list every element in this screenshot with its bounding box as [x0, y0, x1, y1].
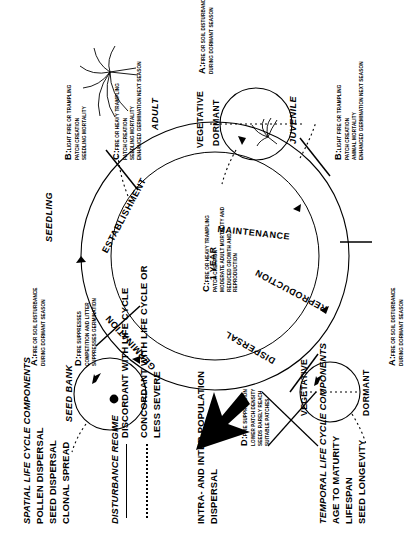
note-key: A: — [387, 356, 397, 366]
note-line: PATCH CREATION — [75, 85, 82, 160]
note-line: MODERATE ADULT MORTALITY AND — [220, 207, 227, 292]
note-line: DURING DORMANT SEASON — [399, 287, 406, 366]
ring-arrowhead-right — [238, 136, 246, 145]
seed-bank-arrow-icon — [92, 373, 101, 384]
note-head: FIRE SUPPRESSES — [77, 311, 82, 356]
note-line: SUPPRESSES GERMINATION — [92, 298, 99, 366]
note-line: SEEDLING MORTALITY — [130, 61, 137, 160]
note-head: FIRE OR SOIL DISTURBANCE — [201, 0, 206, 64]
note-germination-D: D:FIRE SUPPRESSES COMPETITION AND LITTER… — [72, 298, 99, 366]
note-key: A: — [197, 64, 207, 74]
note-line: PATCH CREATION — [213, 207, 220, 292]
note-line: ENHANCED GERMINATION NEXT SEASON — [137, 61, 144, 160]
note-juvenile-A: A:FIRE OR SOIL DISTURBANCE DURING DORMAN… — [196, 0, 216, 74]
note-line: PATCH CREATION — [123, 61, 130, 160]
note-line: REDUCED GROWTH AND — [227, 207, 234, 292]
ring-arrowhead-lowerright — [293, 204, 301, 212]
regime-dotted-rule — [146, 444, 148, 518]
juvenile-plant-icon — [252, 118, 277, 146]
temporal-item-1: LIFESPAN — [344, 477, 354, 524]
note-head: FIRE SUPPRESSION — [243, 389, 248, 436]
spatial-item-0: POLLEN DISPERSAL — [35, 427, 45, 524]
regime-solid-rule — [126, 444, 127, 518]
regime-solid-label: DISCORDANT WITH LIFE CYCLE — [120, 288, 130, 438]
note-dispersal-D: D:FIRE SUPPRESSION LOWER PATCH DENSITY S… — [238, 388, 271, 446]
note-adult-A: A:FIRE OR SOIL DISTURBANCE DURING DORMAN… — [386, 287, 406, 366]
note-head: LIGHT FIRE OR TRAMPLING — [337, 85, 342, 151]
regime-title: DISTURBANCE REGIME — [110, 415, 120, 524]
note-head: FIRE OR HEAVY TRAMPLING — [205, 215, 210, 282]
state-vegetative-right: VEGETATIVE — [196, 91, 206, 148]
note-establishment-C: C:FIRE OR HEAVY TRAMPLING PATCH CREATION… — [110, 61, 143, 160]
note-maintenance-C: C:FIRE OR HEAVY TRAMPLING PATCH CREATION… — [200, 207, 240, 292]
spatial-item-2: CLONAL SPREAD — [61, 442, 71, 525]
juvenile-dotted-connector — [222, 150, 236, 184]
seed-bank-seed-icon — [110, 395, 119, 404]
note-line: PATCH CREATION — [345, 61, 352, 160]
note-line: DURING DORMANT SEASON — [209, 0, 216, 74]
note-seedling-B: B:LIGHT FIRE OR TRAMPLING PATCH CREATION… — [62, 85, 89, 160]
stage-seed-bank: SEED BANK — [64, 364, 74, 422]
note-key: D: — [73, 356, 83, 366]
note-line: SUITABLE PATCHES — [265, 388, 272, 446]
note-line: SEEDLING MORTALITY — [82, 85, 89, 160]
note-key: B: — [63, 150, 73, 160]
note-line: ANIMAL MORTALITY — [352, 61, 359, 160]
note-line: REPRODUCTION — [233, 207, 240, 292]
note-line: LOWER PATCH DENSITY — [251, 388, 258, 446]
note-key: C: — [111, 150, 121, 160]
spatial-item-1: SEED DISPERSAL — [48, 440, 58, 524]
note-line: DURING DORMANT SEASON — [41, 287, 48, 366]
note-key: B: — [333, 150, 343, 160]
note-line: COMPETITION AND LITTER — [85, 298, 92, 366]
spatial-title: SPATIAL LIFE CYCLE COMPONENTS — [22, 357, 32, 524]
seed-bank-dotted-connector — [72, 424, 86, 452]
temporal-item-0: AGE TO MATURITY — [331, 436, 341, 524]
note-head: FIRE OR SOIL DISTURBANCE — [33, 287, 38, 356]
dispersal-title: INTRA- AND INTER-POPULATION — [196, 371, 206, 524]
temporal-title: TEMPORAL LIFE CYCLE COMPONENTS — [318, 343, 328, 524]
note-key: A: — [29, 356, 39, 366]
note-line: SEEDS RARELY REACH — [258, 388, 265, 446]
note-line: ENHANCED GERMINATION NEXT SEASON — [359, 61, 366, 160]
figure-canvas: SPATIAL LIFE CYCLE COMPONENTS POLLEN DIS… — [0, 0, 416, 542]
note-seedbank-A: A:FIRE OR SOIL DISTURBANCE DURING DORMAN… — [28, 287, 48, 366]
state-vegetative-left: VEGETATIVE — [300, 359, 310, 416]
temporal-item-2: SEED LONGEVITY — [357, 440, 367, 524]
note-head: LIGHT FIRE OR TRAMPLING — [67, 85, 72, 151]
stage-seedling: SEEDLING — [44, 192, 54, 242]
regime-dotted-label-2: LESS SEVERE — [152, 371, 162, 438]
note-key: D: — [239, 436, 249, 446]
note-adult-B: B:LIGHT FIRE OR TRAMPLING PATCH CREATION… — [332, 61, 365, 160]
dispersal-item: DISPERSAL — [209, 469, 219, 524]
state-dormant-right: DORMANT — [212, 99, 222, 146]
stage-juvenile: JUVENILE — [288, 96, 298, 144]
ring-arrowhead-top — [76, 256, 86, 263]
stage-adult: ADULT — [150, 98, 160, 130]
state-dormant-left: DORMANT — [362, 369, 372, 416]
note-head: FIRE OR HEAVY TRAMPLING — [115, 83, 120, 150]
note-head: FIRE OR SOIL DISTURBANCE — [391, 287, 396, 356]
note-key: C: — [201, 282, 211, 292]
